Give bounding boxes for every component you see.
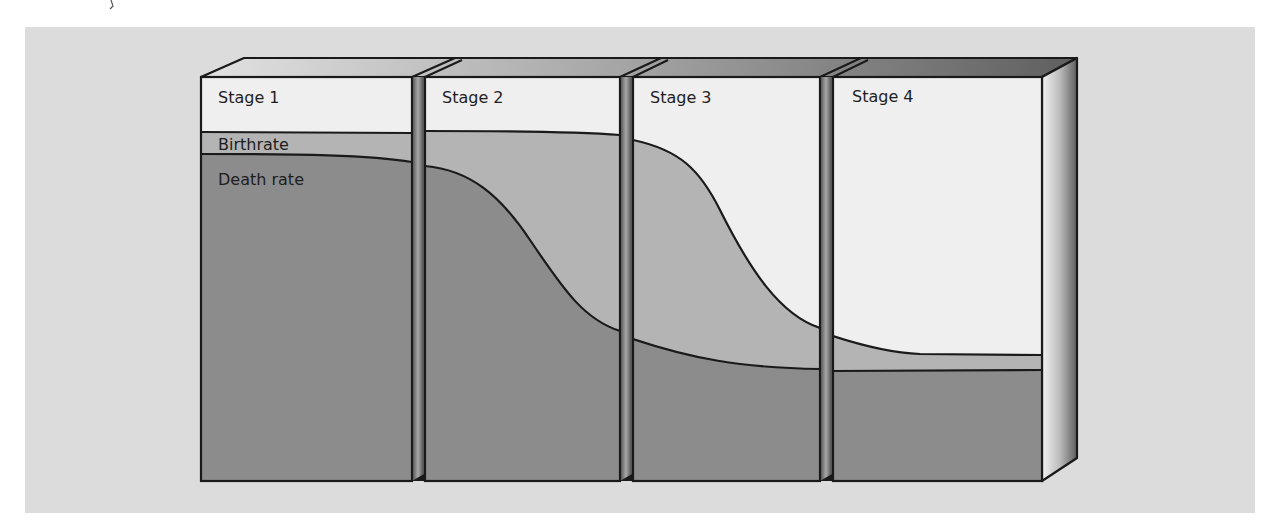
death-rate-line <box>833 370 1042 371</box>
title-fragment <box>110 0 113 9</box>
death-rate-area <box>201 154 412 481</box>
stage-3-label: Stage 3 <box>650 90 712 106</box>
birthrate-line <box>201 132 412 133</box>
death-rate-area <box>833 370 1042 481</box>
divider-2-3 <box>621 77 632 481</box>
stage-4-label: Stage 4 <box>852 89 914 105</box>
death-rate-label: Death rate <box>218 172 304 188</box>
demographic-transition-figure: Stage 1 Stage 2 Stage 3 Stage 4 Birthrat… <box>0 0 1287 532</box>
birthrate-label: Birthrate <box>218 137 289 153</box>
divider-1-2 <box>413 77 424 481</box>
stage-3-panel <box>633 77 820 481</box>
right-side-face <box>1042 58 1077 481</box>
stage-2-label: Stage 2 <box>442 90 504 106</box>
diagram-canvas <box>0 0 1287 532</box>
stage-1-label: Stage 1 <box>218 90 280 106</box>
stage-2-panel <box>425 77 620 481</box>
divider-3-4 <box>821 77 832 481</box>
stage-4-panel <box>833 77 1042 481</box>
